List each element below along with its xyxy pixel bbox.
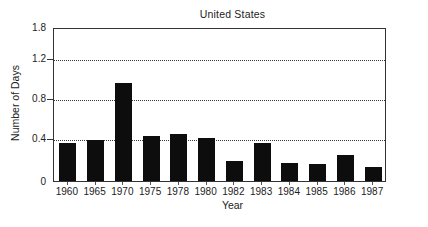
y-tick-label-0.4: 0.4: [6, 134, 46, 144]
x-tick-mark-1978: [178, 182, 179, 185]
plot-frame: [53, 28, 386, 182]
bar-1960: [59, 143, 76, 181]
y-tick-label-1.8: 1.8: [6, 23, 46, 33]
gridline-1.2: [54, 60, 385, 61]
plot-area: [54, 29, 385, 181]
x-tick-label-1987: 1987: [353, 186, 391, 197]
caption-fragment: [160, 218, 305, 223]
x-axis-title: Year: [160, 199, 305, 211]
bar-1965: [87, 140, 104, 181]
x-tick-mark-1987: [372, 182, 373, 185]
chart-title: United States: [160, 8, 305, 20]
y-tick-label-0: 0: [6, 177, 46, 187]
y-tick-label-0.8: 0.8: [6, 94, 46, 104]
x-tick-mark-1965: [95, 182, 96, 185]
bar-1978: [170, 134, 187, 181]
y-tick-label-1.2: 1.2: [6, 54, 46, 64]
bar-1983: [254, 143, 271, 181]
x-tick-mark-1986: [344, 182, 345, 185]
bar-1975: [143, 136, 160, 181]
bar-1987: [365, 167, 382, 181]
x-tick-mark-1983: [261, 182, 262, 185]
bar-1984: [281, 163, 298, 181]
x-tick-mark-1984: [289, 182, 290, 185]
gridline-0.8: [54, 100, 385, 101]
x-tick-mark-1980: [206, 182, 207, 185]
bar-1986: [337, 155, 354, 181]
x-tick-mark-1975: [150, 182, 151, 185]
x-tick-mark-1970: [122, 182, 123, 185]
x-tick-mark-1960: [67, 182, 68, 185]
x-tick-mark-1985: [317, 182, 318, 185]
bar-1980: [198, 138, 215, 181]
bar-1982: [226, 161, 243, 181]
bar-1985: [309, 164, 326, 181]
x-tick-mark-1982: [233, 182, 234, 185]
figure-container: United States Number of Days 1.81.20.80.…: [0, 0, 428, 227]
bar-1970: [115, 83, 132, 181]
